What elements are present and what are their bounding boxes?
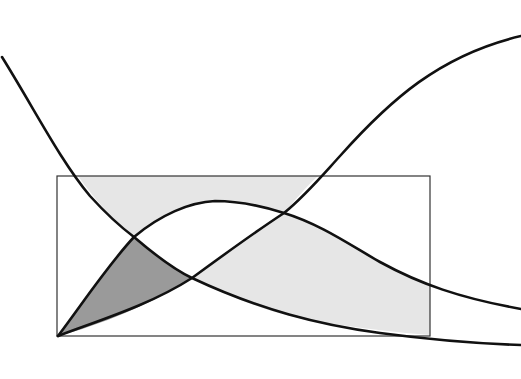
curves-diagram bbox=[0, 0, 521, 379]
dark-region bbox=[58, 237, 192, 336]
light-region-bottom-right bbox=[192, 213, 430, 335]
diagram-canvas bbox=[0, 0, 521, 379]
